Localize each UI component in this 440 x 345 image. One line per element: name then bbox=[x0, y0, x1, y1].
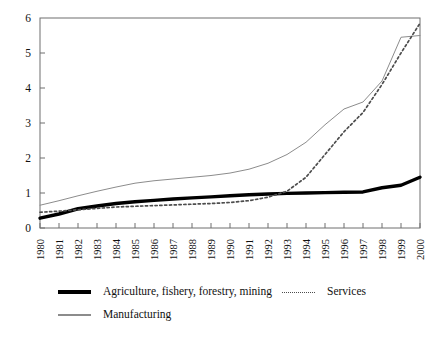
x-tick-label: 1982 bbox=[73, 239, 84, 260]
legend-swatch-dotted-icon bbox=[282, 286, 315, 298]
x-tick-label: 1983 bbox=[92, 239, 103, 260]
series-line bbox=[40, 36, 420, 206]
x-tick-label: 1992 bbox=[263, 239, 274, 260]
legend-item-agriculture: Agriculture, fishery, forestry, mining bbox=[58, 286, 272, 298]
x-tick-label: 1994 bbox=[301, 238, 312, 260]
legend-item-services: Services bbox=[282, 286, 366, 298]
y-tick-label: 0 bbox=[25, 222, 31, 234]
x-tick-label: 1996 bbox=[339, 239, 350, 260]
legend-label-agriculture: Agriculture, fishery, forestry, mining bbox=[103, 286, 272, 298]
data-series bbox=[40, 23, 420, 218]
x-tick-label: 1993 bbox=[282, 239, 293, 260]
y-tick-label: 5 bbox=[25, 47, 31, 59]
x-tick-label: 1991 bbox=[244, 239, 255, 260]
legend-label-manufacturing: Manufacturing bbox=[103, 309, 171, 321]
x-tick-label: 1987 bbox=[168, 239, 179, 260]
series-line bbox=[40, 23, 420, 212]
legend-swatch-thick-solid-icon bbox=[58, 286, 91, 298]
x-tick-label: 2000 bbox=[415, 239, 426, 260]
legend-swatch-thin-solid-icon bbox=[58, 309, 91, 321]
x-tick-label: 1989 bbox=[206, 239, 217, 260]
series-line bbox=[40, 177, 420, 218]
y-axis-ticks bbox=[40, 53, 45, 228]
x-tick-label: 1998 bbox=[377, 239, 388, 260]
x-tick-label: 1995 bbox=[320, 239, 331, 260]
y-tick-label: 4 bbox=[25, 82, 31, 94]
y-tick-label: 6 bbox=[25, 12, 31, 24]
x-tick-label: 1986 bbox=[149, 239, 160, 260]
y-tick-label: 3 bbox=[25, 117, 31, 129]
chart-figure: 0123456 19801981198219831984198519861987… bbox=[0, 0, 440, 345]
y-tick-label: 2 bbox=[25, 152, 31, 164]
x-tick-label: 1984 bbox=[111, 238, 122, 260]
x-tick-label: 1981 bbox=[54, 239, 65, 260]
y-tick-label: 1 bbox=[25, 187, 31, 199]
x-tick-label: 1997 bbox=[358, 239, 369, 260]
chart-legend: Agriculture, fishery, forestry, mining M… bbox=[0, 282, 440, 345]
x-tick-label: 1980 bbox=[35, 239, 46, 260]
x-tick-label: 1988 bbox=[187, 239, 198, 260]
x-tick-label: 1999 bbox=[396, 239, 407, 260]
legend-item-manufacturing: Manufacturing bbox=[58, 309, 171, 321]
plot-area-wrapper: 0123456 19801981198219831984198519861987… bbox=[0, 0, 440, 280]
legend-label-services: Services bbox=[327, 286, 366, 298]
x-axis-tick-labels: 1980198119821983198419851986198719881989… bbox=[35, 238, 426, 260]
line-chart: 0123456 19801981198219831984198519861987… bbox=[0, 0, 440, 280]
x-tick-label: 1985 bbox=[130, 239, 141, 260]
x-tick-label: 1990 bbox=[225, 239, 236, 260]
y-axis-tick-labels: 0123456 bbox=[25, 12, 31, 234]
x-axis-ticks bbox=[40, 223, 420, 228]
